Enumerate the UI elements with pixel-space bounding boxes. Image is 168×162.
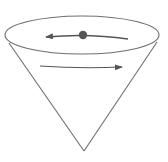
cone-diagram: Ball circling inside a cone <box>0 0 168 162</box>
lower-arrow-right-icon <box>40 66 122 68</box>
cone <box>9 42 157 151</box>
cone-svg <box>0 0 168 162</box>
cone-left-side <box>9 43 84 151</box>
ball <box>79 31 87 39</box>
cone-right-side <box>84 42 157 151</box>
